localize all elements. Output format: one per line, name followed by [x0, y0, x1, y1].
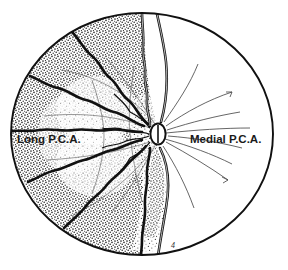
label-long-pca: Long P.C.A.	[17, 133, 81, 145]
label-medial-pca: Medial P.C.A.	[190, 133, 261, 145]
anatomy-illustration: Long P.C.A. Medial P.C.A. 4	[0, 0, 288, 270]
signature-mark: 4	[171, 241, 175, 250]
vessel-superior-temporal	[157, 14, 167, 122]
figure-root: Long P.C.A. Medial P.C.A. 4	[0, 0, 288, 270]
optic-disc	[150, 123, 165, 144]
